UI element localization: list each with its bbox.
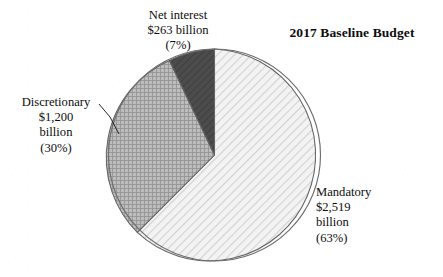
- slice-label-mandatory-unit: billion: [316, 215, 426, 230]
- slice-label-discretionary: Discretionary $1,200 billion (30%): [4, 95, 108, 156]
- slice-label-mandatory-percent: (63%): [316, 231, 426, 246]
- chart-title: 2017 Baseline Budget: [266, 25, 438, 41]
- slice-label-net-interest-amount: $263 billion: [108, 23, 248, 38]
- slice-label-discretionary-unit: billion: [4, 125, 108, 140]
- slice-label-discretionary-name: Discretionary: [4, 95, 108, 110]
- slice-label-discretionary-amount: $1,200: [4, 110, 108, 125]
- slice-label-mandatory: Mandatory $2,519 billion (63%): [316, 185, 426, 246]
- slice-label-discretionary-percent: (30%): [4, 141, 108, 156]
- slice-label-net-interest-percent: (7%): [108, 38, 248, 53]
- slice-label-mandatory-name: Mandatory: [316, 185, 426, 200]
- slice-label-net-interest-name: Net interest: [108, 8, 248, 23]
- slice-label-mandatory-amount: $2,519: [316, 200, 426, 215]
- pie-chart-figure: 2017 Baseline Budget Net interest $263 b…: [0, 0, 443, 277]
- slice-label-net-interest: Net interest $263 billion (7%): [108, 8, 248, 54]
